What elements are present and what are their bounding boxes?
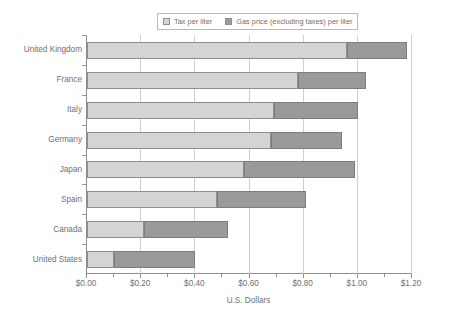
x-axis-minor-tick [276, 274, 277, 277]
bar-segment-gas[interactable] [114, 251, 195, 268]
bar-segment-gas[interactable] [347, 42, 407, 59]
bar-segment-tax[interactable] [87, 42, 347, 59]
category-label: Italy [67, 105, 82, 115]
bar-row[interactable] [87, 221, 412, 238]
legend-entry-tax: Tax per liter [163, 17, 212, 26]
y-axis-tick [82, 155, 86, 156]
y-axis-tick [82, 65, 86, 66]
x-axis-tick-label: $1.20 [401, 278, 422, 289]
bar-row[interactable] [87, 251, 412, 268]
legend-entry-gas: Gas price (excluding taxes) per liter [225, 17, 352, 26]
y-axis-tick [82, 95, 86, 96]
bar-segment-tax[interactable] [87, 161, 244, 178]
bar-segment-tax[interactable] [87, 72, 298, 89]
y-axis-tick [82, 35, 86, 36]
bar-segment-tax[interactable] [87, 132, 271, 149]
x-axis-tick-label: $0.60 [238, 278, 259, 289]
bar-segment-tax[interactable] [87, 102, 274, 119]
category-label: Spain [61, 195, 82, 205]
plot-area [86, 35, 411, 274]
legend-swatch-gas-icon [225, 18, 232, 25]
x-axis-title: U.S. Dollars [86, 296, 411, 305]
bar-segment-tax[interactable] [87, 251, 114, 268]
bar-segment-gas[interactable] [271, 132, 341, 149]
chart-legend: Tax per liter Gas price (excluding taxes… [157, 13, 358, 30]
y-axis-tick [82, 214, 86, 215]
category-axis-labels: United KingdomFranceItalyGermanyJapanSpa… [0, 35, 82, 274]
category-label: Germany [48, 135, 82, 145]
x-axis-tick-label: $0.40 [184, 278, 205, 289]
category-label: Canada [53, 225, 82, 235]
bar-row[interactable] [87, 42, 412, 59]
y-axis-tick [82, 184, 86, 185]
bar-row[interactable] [87, 191, 412, 208]
bar-row[interactable] [87, 102, 412, 119]
x-axis-minor-tick [221, 274, 222, 277]
category-label: France [57, 75, 82, 85]
x-axis-tick-labels: $0.00$0.20$0.40$0.60$0.80$1.00$1.20 [86, 278, 411, 290]
category-label: Japan [60, 165, 82, 175]
bar-row[interactable] [87, 132, 412, 149]
x-axis-minor-tick [384, 274, 385, 277]
bar-segment-gas[interactable] [274, 102, 358, 119]
x-axis-minor-tick [113, 274, 114, 277]
x-axis-minor-tick [330, 274, 331, 277]
x-axis-tick-label: $1.00 [347, 278, 368, 289]
x-axis-tick-label: $0.20 [130, 278, 151, 289]
bar-segment-tax[interactable] [87, 191, 217, 208]
bar-segment-tax[interactable] [87, 221, 144, 238]
bar-row[interactable] [87, 72, 412, 89]
x-axis-tick-label: $0.80 [292, 278, 313, 289]
stacked-bar-chart: Tax per liter Gas price (excluding taxes… [0, 0, 471, 328]
bar-segment-gas[interactable] [244, 161, 355, 178]
bar-segment-gas[interactable] [144, 221, 228, 238]
legend-label-gas: Gas price (excluding taxes) per liter [236, 17, 352, 26]
legend-swatch-tax-icon [163, 18, 170, 25]
x-axis-tick-label: $0.00 [76, 278, 97, 289]
bar-segment-gas[interactable] [217, 191, 306, 208]
bar-segment-gas[interactable] [298, 72, 366, 89]
y-axis-tick [82, 125, 86, 126]
category-label: United States [33, 255, 82, 265]
category-label: United Kingdom [24, 45, 82, 55]
y-axis-tick [82, 244, 86, 245]
x-axis-minor-tick [167, 274, 168, 277]
bar-row[interactable] [87, 161, 412, 178]
legend-label-tax: Tax per liter [174, 17, 212, 26]
